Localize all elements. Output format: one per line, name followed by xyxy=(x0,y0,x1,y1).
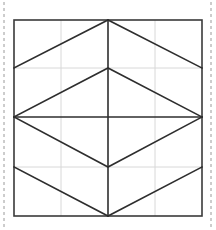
geometric-figure-canvas xyxy=(0,0,216,230)
